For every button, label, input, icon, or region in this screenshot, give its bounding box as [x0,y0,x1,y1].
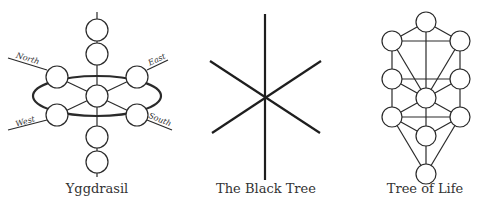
yggdrasil-node [86,19,108,41]
sephirah-node [450,107,470,127]
sephirah-node [450,69,470,89]
sephirah-node [416,126,436,146]
sephirah-node [450,31,470,51]
sephirah-node [416,88,436,108]
west-label: West [15,114,37,129]
sephirah-node [382,31,402,51]
yggdrasil-diagram [8,12,172,177]
yggdrasil-node [86,126,108,148]
sephirah-node [382,69,402,89]
black-tree-caption: The Black Tree [216,181,316,196]
yggdrasil-node [86,43,108,65]
yggdrasil-node-west [46,104,68,126]
yggdrasil-caption: Yggdrasil [66,181,129,196]
black-tree-diagram [210,14,321,180]
yggdrasil-node [86,151,108,173]
tree-of-life-diagram [382,12,470,184]
yggdrasil-node-center [86,85,108,107]
tree-of-life-caption: Tree of Life [387,181,463,196]
sephirah-node [382,107,402,127]
yggdrasil-node-north [46,66,68,88]
sephirah-node [416,12,436,32]
yggdrasil-node-east [126,66,148,88]
yggdrasil-node-south [126,104,148,126]
